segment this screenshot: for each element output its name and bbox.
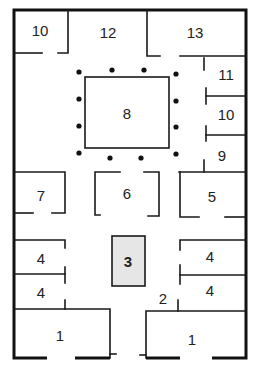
room-label-6: 6: [123, 185, 131, 202]
room-label-12: 12: [100, 24, 117, 41]
room-label-1-right: 1: [188, 331, 196, 348]
room-label-4-left-upper: 4: [37, 250, 45, 267]
column-icon: [141, 67, 146, 72]
room-label-5: 5: [208, 188, 216, 205]
column-icon: [76, 123, 81, 128]
room-label-13: 13: [187, 24, 204, 41]
column-icon: [173, 98, 178, 103]
room-label-4-left-lower: 4: [37, 284, 45, 301]
floor-plan: 10 12 13 11 10 9 8 7 6 5 3 4 4 4 4 2 1 1: [0, 0, 259, 368]
column-icon: [173, 71, 178, 76]
column-icon: [138, 155, 143, 160]
room-label-9: 9: [218, 147, 226, 164]
column-icon: [107, 155, 112, 160]
room-label-4-right-lower: 4: [206, 282, 214, 299]
room-label-10-top-left: 10: [32, 22, 49, 39]
room-label-3: 3: [124, 253, 132, 270]
right-rooms-walls: [179, 58, 246, 172]
room-label-2: 2: [159, 290, 167, 307]
room-label-8: 8: [123, 105, 131, 122]
column-icon: [76, 150, 81, 155]
column-icon: [173, 151, 178, 156]
column-icon: [173, 124, 178, 129]
room-label-4-right-upper: 4: [206, 248, 214, 265]
column-icon: [76, 69, 81, 74]
room-1-left-walls: [14, 309, 116, 358]
column-icon: [76, 96, 81, 101]
room-label-10-right: 10: [218, 106, 235, 123]
column-icon: [109, 67, 114, 72]
room-label-7: 7: [37, 187, 45, 204]
room-label-1-left: 1: [56, 327, 64, 344]
room-label-11: 11: [218, 66, 234, 83]
